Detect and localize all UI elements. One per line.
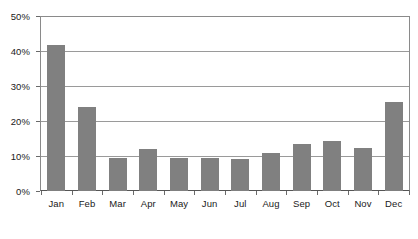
- x-tick-label: Nov: [354, 198, 371, 209]
- bar-mar: [109, 158, 127, 191]
- x-tick-label: Jan: [49, 198, 65, 209]
- y-tick-label: 40%: [11, 46, 30, 57]
- bar-apr: [139, 149, 157, 191]
- y-tick-mark: [36, 191, 40, 192]
- y-tick-label: 10%: [11, 151, 30, 162]
- x-tick-mark: [348, 191, 349, 195]
- x-tick-mark: [225, 191, 226, 195]
- x-tick-label: Sep: [293, 198, 310, 209]
- x-tick-label: Aug: [262, 198, 279, 209]
- bar-feb: [78, 107, 96, 191]
- x-tick-label: Jun: [202, 198, 218, 209]
- x-tick-mark: [41, 191, 42, 195]
- x-axis: Jan Feb Mar Apr May Jun Jul Aug Sep Oct …: [41, 198, 409, 218]
- bar-jul: [231, 159, 249, 191]
- x-tick-label: Mar: [109, 198, 126, 209]
- x-tick-mark: [164, 191, 165, 195]
- x-tick-mark: [133, 191, 134, 195]
- x-tick-label: Dec: [385, 198, 402, 209]
- x-tick-mark: [409, 191, 410, 195]
- x-tick-label: Jul: [234, 198, 246, 209]
- bar-may: [170, 158, 188, 191]
- x-tick-mark: [256, 191, 257, 195]
- y-axis: 50% 40% 30% 20% 10% 0%: [0, 0, 36, 239]
- x-tick-mark: [72, 191, 73, 195]
- x-tick-label: Apr: [141, 198, 156, 209]
- bar-oct: [323, 141, 341, 191]
- bar-jun: [201, 158, 219, 191]
- bar-dec: [385, 102, 403, 191]
- bar-jan: [47, 45, 65, 191]
- x-tick-label: May: [170, 198, 188, 209]
- bar-aug: [262, 153, 280, 191]
- x-tick-mark: [378, 191, 379, 195]
- y-tick-label: 0%: [16, 186, 30, 197]
- x-tick-label: Oct: [325, 198, 340, 209]
- bar-series: [41, 17, 409, 191]
- y-tick-label: 50%: [11, 11, 30, 22]
- x-tick-mark: [286, 191, 287, 195]
- x-tick-mark: [317, 191, 318, 195]
- x-tick-label: Feb: [79, 198, 96, 209]
- x-tick-mark: [194, 191, 195, 195]
- x-tick-mark: [102, 191, 103, 195]
- y-tick-label: 30%: [11, 81, 30, 92]
- y-tick-label: 20%: [11, 116, 30, 127]
- bar-sep: [293, 144, 311, 191]
- bar-nov: [354, 148, 372, 192]
- bar-chart: 50% 40% 30% 20% 10% 0% Jan Feb M: [0, 0, 418, 239]
